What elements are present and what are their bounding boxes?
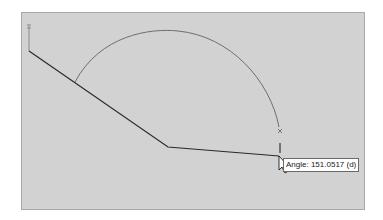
angle-tooltip: Angle: 151.0517 (d) xyxy=(283,158,359,172)
arc-end-marker-icon xyxy=(278,129,282,133)
polyline-segment[interactable] xyxy=(29,51,279,156)
start-marker-icon xyxy=(27,25,31,51)
arc-preview xyxy=(75,30,279,127)
drawing-layer xyxy=(0,0,383,220)
